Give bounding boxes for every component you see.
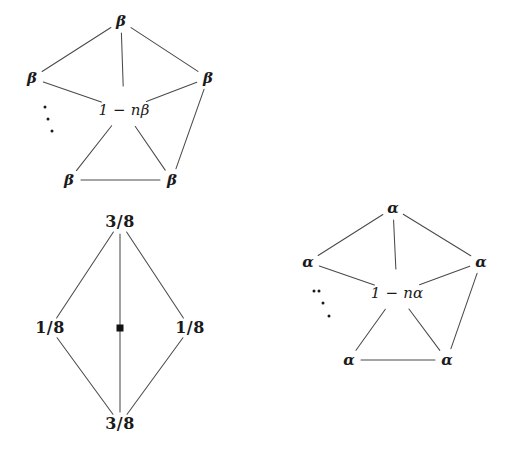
graph-edge-a-top-to-a-right	[403, 214, 471, 255]
node-label-a-bright: α	[441, 353, 453, 368]
graph-edge-a-top-to-a-left	[318, 214, 383, 255]
graph-edge-d-left-to-d-bottom	[57, 338, 113, 415]
node-label-a-right: α	[475, 255, 487, 270]
node-label-d-top: 3/8	[105, 214, 135, 230]
node-label-d-bottom: 3/8	[105, 416, 135, 432]
ellipsis-dot-4	[313, 290, 316, 293]
node-label-d-left: 1/8	[35, 320, 65, 336]
graph-edge-a-right-to-a-bright	[451, 273, 477, 348]
graph-edge-a-right-to-center	[420, 266, 470, 285]
graph-edge-center-to-a-bright	[409, 309, 440, 350]
node-label-b-left: β	[27, 71, 37, 86]
ellipsis-dot-1	[318, 290, 321, 293]
node-label-a-bleft: α	[343, 353, 355, 368]
node-label-a-top: α	[387, 201, 399, 216]
node-label-a-left: α	[302, 255, 314, 270]
node-label-b-right: β	[203, 71, 213, 86]
graph-edge-center-to-b-bleft	[76, 126, 111, 171]
graph-edge-b-top-to-center	[121, 33, 123, 86]
graph-edge-center-to-b-bright	[135, 126, 165, 170]
graph-edge-b-right-to-b-bright	[176, 89, 204, 168]
graph-edge-d-right-to-d-bottom	[127, 338, 183, 415]
graph-edge-d-top-to-d-right	[127, 232, 184, 318]
graph-edge-b-top-to-b-right	[131, 28, 198, 72]
node-label-center-alpha-star-graph: 1 − nα	[371, 286, 424, 301]
graph-edge-b-left-to-center	[43, 82, 101, 102]
ellipsis-dot-2	[47, 118, 50, 121]
node-label-b-bleft: β	[64, 173, 74, 188]
center-square-marker	[117, 325, 124, 332]
ellipsis-dot-1	[44, 106, 47, 109]
graph-edge-a-left-to-center	[319, 266, 374, 285]
graph-edges-canvas	[0, 0, 508, 469]
graph-edge-center-to-a-bleft	[356, 309, 385, 350]
graph-edge-b-top-to-b-left	[42, 27, 111, 71]
node-label-b-bright: β	[167, 173, 177, 188]
node-label-d-right: 1/8	[175, 320, 205, 336]
graph-edge-b-right-to-center	[146, 82, 196, 101]
graph-edge-d-top-to-d-left	[57, 232, 114, 318]
ellipsis-dot-3	[328, 315, 331, 318]
ellipsis-dot-2	[322, 302, 325, 305]
graph-edge-a-top-to-center	[394, 220, 396, 269]
ellipsis-dot-3	[51, 130, 54, 133]
node-label-b-top: β	[116, 14, 126, 29]
node-label-center-beta-star-graph: 1 − nβ	[98, 103, 149, 118]
